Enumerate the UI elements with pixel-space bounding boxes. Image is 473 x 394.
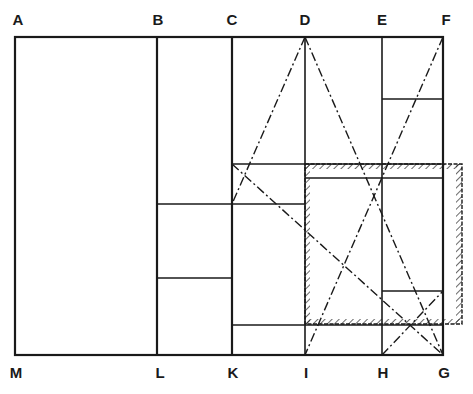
label-M: M xyxy=(10,364,23,381)
label-K: K xyxy=(228,364,239,381)
label-F: F xyxy=(441,11,450,28)
label-A: A xyxy=(13,11,24,28)
label-C: C xyxy=(227,11,238,28)
label-G: G xyxy=(438,364,450,381)
label-I: I xyxy=(304,364,308,381)
label-H: H xyxy=(378,364,389,381)
label-D: D xyxy=(300,11,311,28)
hatched-rectangle xyxy=(305,164,462,324)
label-L: L xyxy=(155,364,164,381)
diagonal-D-to-C204 xyxy=(232,37,305,204)
outer-frame xyxy=(15,37,443,355)
label-B: B xyxy=(153,11,164,28)
label-E: E xyxy=(377,11,387,28)
diagram-canvas: A B C D E F M L K I H G xyxy=(0,0,473,394)
diagonal-C164-G xyxy=(232,164,443,355)
